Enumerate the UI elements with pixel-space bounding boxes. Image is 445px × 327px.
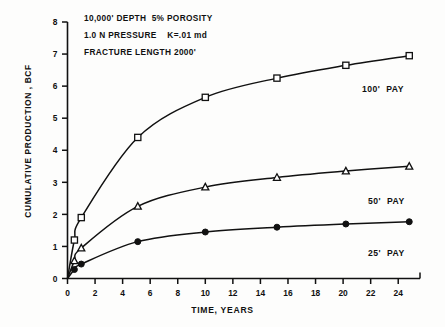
x-tick-label: 12 — [228, 288, 238, 298]
data-marker-square — [78, 214, 84, 220]
x-tick-label: 6 — [148, 288, 153, 298]
y-tick-label: 4 — [53, 145, 58, 155]
x-tick-label: 2 — [93, 288, 98, 298]
data-marker-square — [343, 62, 349, 68]
data-series — [68, 53, 413, 279]
x-tick-label: 0 — [65, 288, 70, 298]
y-tick-label: 5 — [53, 113, 58, 123]
x-tick-label: 16 — [283, 288, 293, 298]
series-line — [68, 56, 410, 279]
data-series — [68, 163, 413, 279]
x-tick-label: 18 — [311, 288, 321, 298]
chart-annotations: 10,000' DEPTH 5% POROSITY 1.0 N PRESSURE… — [84, 14, 213, 64]
data-marker-circle — [274, 224, 280, 230]
data-marker-circle — [343, 221, 349, 227]
x-tick-label: 8 — [175, 288, 180, 298]
x-tick-label: 14 — [256, 288, 266, 298]
plot-canvas: 012345678024681012141618202224 — [0, 0, 445, 327]
data-marker-triangle — [134, 203, 141, 210]
data-marker-circle — [71, 267, 77, 273]
y-tick-label: 7 — [53, 49, 58, 59]
y-axis-title: CUMULATIVE PRODUCTION , BCF — [23, 36, 33, 246]
data-marker-triangle — [202, 183, 209, 190]
y-tick-label: 1 — [53, 242, 58, 252]
y-tick-label: 6 — [53, 81, 58, 91]
data-marker-square — [135, 134, 141, 140]
x-tick-label: 22 — [366, 288, 376, 298]
series-label-25ft-pay: 25' PAY — [368, 248, 405, 258]
x-tick-label: 4 — [120, 288, 125, 298]
annotation-line-2: 1.0 N PRESSURE K=.01 md — [84, 31, 213, 39]
y-tick-label: 2 — [53, 210, 58, 220]
data-marker-square — [202, 94, 208, 100]
data-marker-circle — [78, 261, 84, 267]
data-marker-circle — [135, 239, 141, 245]
y-tick-label: 0 — [53, 274, 58, 284]
data-marker-circle — [406, 219, 412, 225]
series-line — [68, 222, 410, 279]
data-marker-triangle — [273, 174, 280, 181]
data-series — [68, 219, 413, 279]
annotation-line-1: 10,000' DEPTH 5% POROSITY — [84, 14, 213, 22]
data-marker-circle — [202, 229, 208, 235]
x-tick-label: 20 — [338, 288, 348, 298]
x-tick-label: 24 — [394, 288, 404, 298]
data-marker-triangle — [342, 167, 349, 174]
y-tick-label: 3 — [53, 178, 58, 188]
x-axis-title: TIME, YEARS — [0, 305, 445, 315]
data-marker-square — [406, 53, 412, 59]
data-marker-triangle — [71, 257, 78, 264]
chart-figure: 012345678024681012141618202224 10,000' D… — [0, 0, 445, 327]
series-label-100ft-pay: 100' PAY — [362, 84, 404, 94]
data-marker-square — [274, 75, 280, 81]
annotation-line-3: FRACTURE LENGTH 2000' — [84, 48, 213, 56]
x-tick-label: 10 — [201, 288, 211, 298]
series-label-50ft-pay: 50' PAY — [368, 196, 405, 206]
data-marker-triangle — [406, 163, 413, 170]
series-line — [68, 166, 410, 278]
data-marker-square — [71, 237, 77, 243]
y-tick-label: 8 — [53, 17, 58, 27]
